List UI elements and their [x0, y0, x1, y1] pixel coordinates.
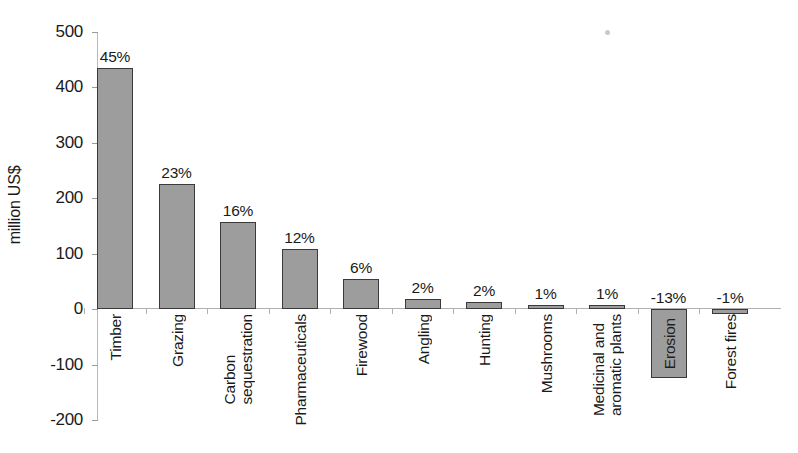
plot-area: 5004003002001000-100-200 45%23%16%12%6%2…	[97, 32, 781, 420]
bar-value-label: 45%	[100, 48, 130, 66]
bar	[466, 302, 502, 309]
category-label-line: Medicinal and	[590, 323, 607, 416]
bar	[343, 279, 379, 309]
x-axis-category-label: Firewood	[353, 314, 370, 376]
bar-value-label: 6%	[350, 259, 372, 277]
x-axis-category-label: Mushrooms	[538, 314, 555, 393]
category-label-line: Forest fires	[722, 314, 739, 389]
bar	[712, 309, 748, 313]
bar-value-label: 12%	[284, 229, 314, 247]
category-label-line: sequestration	[238, 314, 255, 404]
bar	[589, 305, 625, 309]
category-label-line: Carbon	[221, 355, 238, 405]
bar	[97, 68, 133, 309]
bar	[282, 249, 318, 309]
y-axis-tick-label: -100	[50, 355, 83, 375]
y-axis-tick-label: 0	[74, 299, 83, 319]
y-axis-tick-label: -200	[50, 410, 83, 430]
x-axis-tick	[699, 308, 700, 314]
bar	[528, 305, 564, 309]
category-label-line: Angling	[415, 314, 432, 364]
x-axis-tick	[330, 308, 331, 314]
x-axis-category-label: Hunting	[476, 314, 493, 366]
y-axis-tick: 0	[92, 309, 98, 310]
bar-value-label: 2%	[473, 282, 495, 300]
category-label-line: aromatic plants	[607, 314, 624, 416]
y-axis-tick-label: 500	[56, 22, 83, 42]
bar-value-label: 1%	[596, 285, 618, 303]
y-axis-tick-label: 100	[56, 244, 83, 264]
y-axis-tick: -100	[92, 365, 98, 366]
x-axis-category-label: Medicinal andaromatic plants	[590, 314, 624, 416]
x-axis-tick	[515, 308, 516, 314]
x-axis-tick	[146, 308, 147, 314]
bar-value-label: -13%	[651, 289, 686, 307]
x-axis-tick	[392, 308, 393, 314]
x-axis-category-label: Forest fires	[722, 314, 739, 389]
category-label-line: Firewood	[353, 314, 370, 376]
bar-value-label: -1%	[717, 289, 744, 307]
bar-value-label: 2%	[411, 279, 433, 297]
bar-chart: million US$ 5004003002001000-100-200 45%…	[0, 0, 798, 453]
bar	[159, 184, 195, 309]
category-label-line: Grazing	[169, 314, 186, 367]
x-axis-category-label: Pharmaceuticals	[292, 314, 309, 426]
y-axis-tick: 500	[92, 32, 98, 33]
bar-value-label: 16%	[223, 202, 253, 220]
category-label-line: Pharmaceuticals	[292, 314, 309, 426]
y-axis-title: million US$	[6, 130, 24, 280]
x-axis-tick	[207, 308, 208, 314]
y-axis-tick-label: 200	[56, 188, 83, 208]
y-axis-tick-label: 300	[56, 133, 83, 153]
x-axis-category-label: Erosion	[661, 318, 678, 369]
bar-value-label: 23%	[161, 164, 191, 182]
x-axis-tick	[269, 308, 270, 314]
category-label-line: Timber	[107, 314, 124, 360]
x-axis-tick	[453, 308, 454, 314]
x-axis-category-label: Carbonsequestration	[221, 314, 255, 404]
category-label-line: Mushrooms	[538, 314, 555, 393]
category-label-line: Hunting	[476, 314, 493, 366]
x-axis-tick	[84, 308, 85, 314]
bar	[405, 299, 441, 310]
scan-artifact-speck	[605, 30, 610, 35]
x-axis-category-label: Timber	[107, 314, 124, 360]
x-axis-category-label: Grazing	[169, 314, 186, 367]
y-axis-tick: -200	[92, 420, 98, 421]
x-axis-tick	[638, 308, 639, 314]
bar	[220, 222, 256, 309]
x-axis-category-label: Angling	[415, 314, 432, 364]
category-label-line: Erosion	[661, 318, 678, 369]
x-axis-tick	[576, 308, 577, 314]
bar-value-label: 1%	[534, 285, 556, 303]
y-axis-tick-label: 400	[56, 77, 83, 97]
